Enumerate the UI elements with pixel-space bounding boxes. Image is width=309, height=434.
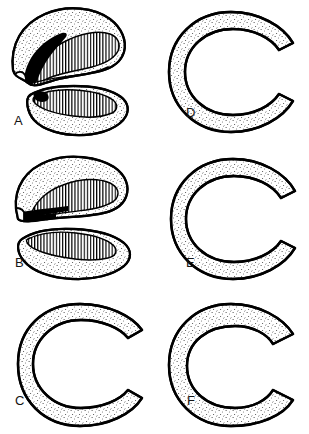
- panel-c: [0, 290, 154, 434]
- panel-a-lower-fragment: [27, 86, 128, 135]
- panel-label-a: A: [14, 114, 23, 127]
- figure-panel-grid: A: [0, 0, 309, 434]
- panel-label-d: D: [186, 106, 196, 119]
- panel-label-e: E: [186, 256, 195, 269]
- panel-b-upper-fragment: [12, 157, 128, 225]
- panel-label-b: B: [15, 256, 24, 269]
- panel-b-lower-fragment: [18, 229, 130, 279]
- panel-label-f: F: [187, 394, 195, 407]
- panel-c-ring: [18, 304, 142, 426]
- panel-a-upper-fragment: [13, 8, 125, 90]
- panel-e: [155, 145, 309, 290]
- panel-label-c: C: [15, 394, 25, 407]
- panel-f: [155, 290, 309, 434]
- panel-d: [155, 0, 309, 145]
